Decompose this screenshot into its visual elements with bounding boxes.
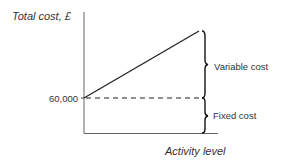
total-cost-line: [84, 31, 199, 98]
y-axis-label: Total cost, £: [12, 10, 71, 23]
fixed-cost-brace: [202, 98, 208, 133]
cost-chart: Total cost, £ 60,000 Variable cost Fixed…: [0, 0, 281, 164]
chart-graphics: [0, 0, 281, 164]
variable-cost-label: Variable cost: [214, 61, 268, 72]
fixed-cost-label: Fixed cost: [213, 110, 256, 121]
variable-cost-brace: [202, 31, 208, 98]
x-axis-label: Activity level: [165, 145, 226, 158]
y-tick-label: 60,000: [49, 93, 78, 104]
